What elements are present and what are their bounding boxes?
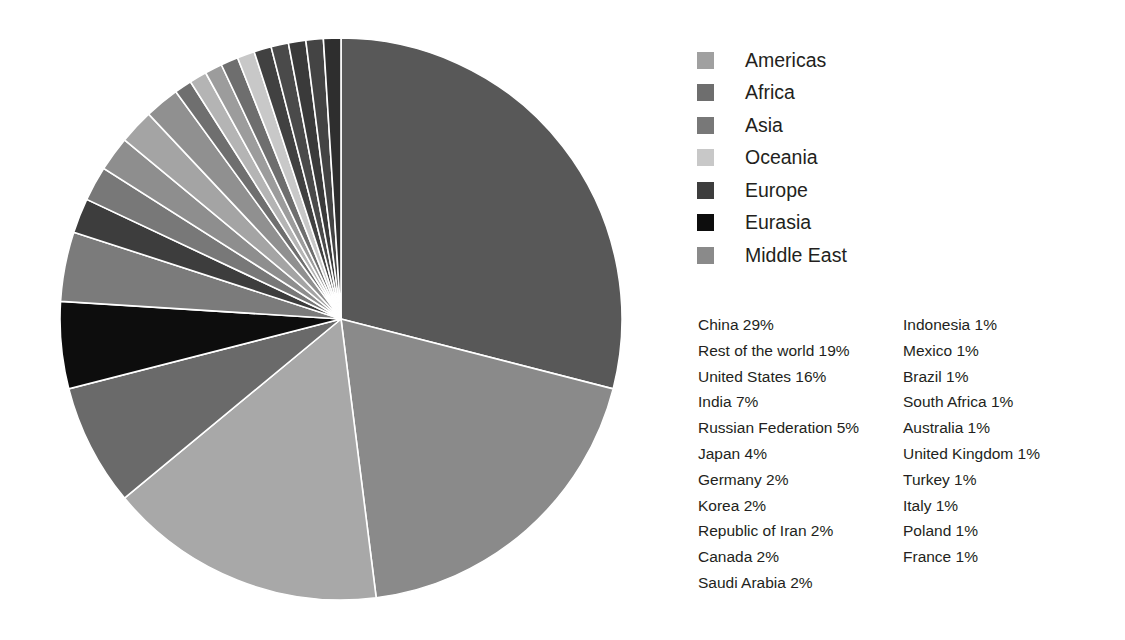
legend-item-label: Middle East bbox=[745, 246, 847, 266]
legend-item-label: Africa bbox=[745, 83, 795, 103]
data-label-column-right: Indonesia 1%Mexico 1%Brazil 1%South Afri… bbox=[903, 312, 1118, 596]
data-label: Rest of the world 19% bbox=[698, 338, 903, 364]
legend-item[interactable]: Middle East bbox=[697, 239, 997, 272]
data-label: China 29% bbox=[698, 312, 903, 338]
data-label: Mexico 1% bbox=[903, 338, 1118, 364]
legend-item[interactable]: Africa bbox=[697, 77, 997, 110]
pie-slice-group bbox=[60, 38, 622, 600]
legend-item-label: Asia bbox=[745, 116, 783, 136]
legend-swatch-icon bbox=[697, 149, 714, 166]
legend-item[interactable]: Europe bbox=[697, 174, 997, 207]
legend-swatch-icon bbox=[697, 182, 714, 199]
legend-swatch-icon bbox=[697, 247, 714, 264]
legend-swatch-icon bbox=[697, 52, 714, 69]
data-label-block: China 29%Rest of the world 19%United Sta… bbox=[698, 312, 1118, 596]
pie-chart-plot-area bbox=[58, 36, 624, 602]
data-label: Russian Federation 5% bbox=[698, 415, 903, 441]
pie-chart-figure: AmericasAfricaAsiaOceaniaEuropeEurasiaMi… bbox=[0, 0, 1125, 640]
data-label: Indonesia 1% bbox=[903, 312, 1118, 338]
legend-item[interactable]: Americas bbox=[697, 44, 997, 77]
legend-item-label: Eurasia bbox=[745, 213, 811, 233]
data-label: Turkey 1% bbox=[903, 467, 1118, 493]
legend-item-label: Europe bbox=[745, 181, 808, 201]
legend-item[interactable]: Eurasia bbox=[697, 207, 997, 240]
data-label: United States 16% bbox=[698, 364, 903, 390]
data-label: Canada 2% bbox=[698, 544, 903, 570]
data-label: France 1% bbox=[903, 544, 1118, 570]
data-label-column-left: China 29%Rest of the world 19%United Sta… bbox=[698, 312, 903, 596]
legend-item-label: Americas bbox=[745, 51, 826, 71]
data-label: Poland 1% bbox=[903, 518, 1118, 544]
legend-swatch-icon bbox=[697, 117, 714, 134]
data-label: Saudi Arabia 2% bbox=[698, 570, 903, 596]
legend-swatch-icon bbox=[697, 84, 714, 101]
data-label: Korea 2% bbox=[698, 493, 903, 519]
legend-item[interactable]: Oceania bbox=[697, 142, 997, 175]
data-label: Japan 4% bbox=[698, 441, 903, 467]
legend-item-label: Oceania bbox=[745, 148, 818, 168]
pie-svg bbox=[58, 36, 624, 602]
data-label: United Kingdom 1% bbox=[903, 441, 1118, 467]
legend-swatch-icon bbox=[697, 214, 714, 231]
data-label: Brazil 1% bbox=[903, 364, 1118, 390]
data-label: South Africa 1% bbox=[903, 389, 1118, 415]
chart-legend: AmericasAfricaAsiaOceaniaEuropeEurasiaMi… bbox=[697, 44, 997, 272]
data-label: Germany 2% bbox=[698, 467, 903, 493]
legend-item[interactable]: Asia bbox=[697, 109, 997, 142]
data-label: India 7% bbox=[698, 389, 903, 415]
data-label: Australia 1% bbox=[903, 415, 1118, 441]
data-label: Republic of Iran 2% bbox=[698, 518, 903, 544]
data-label: Italy 1% bbox=[903, 493, 1118, 519]
